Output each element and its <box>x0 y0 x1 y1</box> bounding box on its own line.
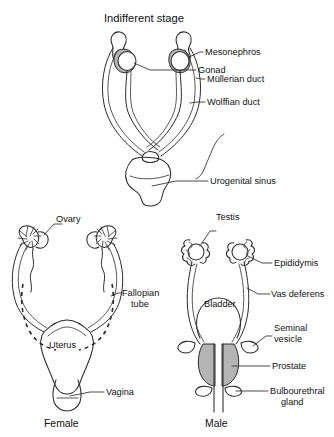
testis-left <box>188 244 204 260</box>
label-urogenital-sinus: Urogenital sinus <box>210 176 276 186</box>
caption-male: Male <box>205 418 228 429</box>
label-vagina: Vagina <box>106 387 135 397</box>
label-testis: Testis <box>216 212 240 222</box>
label-fallopian-tube-line1: Fallopian <box>122 288 159 298</box>
label-bulbourethral-line1: Bulbourethral <box>270 386 325 396</box>
caption-female: Female <box>44 418 79 429</box>
testis-right <box>232 244 248 260</box>
label-seminal-vesicle-line1: Seminal <box>274 323 307 333</box>
label-bladder: Bladder <box>204 299 236 309</box>
label-mullerian-duct: Müllerian duct <box>207 74 265 84</box>
label-fallopian-tube-line2: tube <box>131 299 149 309</box>
sexual-differentiation-figure: Indifferent stage <box>0 0 334 437</box>
gonad-right <box>171 52 189 71</box>
label-epididymis: Epididymis <box>274 258 319 268</box>
label-mesonephros: Mesonephros <box>205 47 261 57</box>
label-bulbourethral-line2: gland <box>281 397 303 407</box>
figure-background <box>0 0 334 437</box>
label-wolffian-duct: Wolffian duct <box>207 97 260 107</box>
label-seminal-vesicle-line2: vesicle <box>274 334 302 344</box>
label-vas-deferens: Vas deferens <box>271 289 325 299</box>
label-uterus: Uterus <box>49 340 76 350</box>
label-prostate: Prostate <box>272 361 306 371</box>
indifferent-stage-title: Indifferent stage <box>104 12 184 24</box>
gonad-left <box>118 52 136 71</box>
label-ovary: Ovary <box>56 214 81 224</box>
